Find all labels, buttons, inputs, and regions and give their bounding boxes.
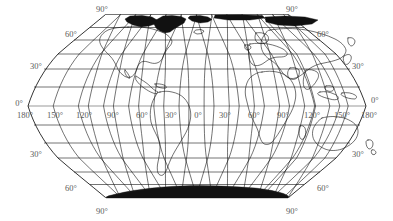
label-lon-0: 0° — [194, 110, 202, 120]
label-lat-right-0: 0° — [371, 95, 379, 105]
landmass-north-pole-ice — [214, 15, 265, 20]
label-lat-left-90n: 90° — [96, 4, 108, 14]
label-lon-30w: 30° — [165, 110, 177, 120]
label-lat-left-0: 0° — [15, 98, 23, 108]
label-lat-right-30n: 30° — [352, 61, 364, 71]
label-lat-right-90s: 90° — [286, 206, 298, 216]
label-lon-150e: 150° — [334, 110, 350, 120]
label-lat-left-60n: 60° — [65, 29, 77, 39]
label-lat-left-30n: 30° — [30, 61, 42, 71]
label-lon-120e: 120° — [304, 110, 320, 120]
label-lon-60w: 60° — [136, 110, 148, 120]
label-lat-right-30s: 30° — [352, 149, 364, 159]
label-lon-30e: 30° — [219, 110, 231, 120]
label-lon-180e: 180° — [361, 110, 377, 120]
label-lon-90e: 90° — [277, 110, 289, 120]
world-map-graphic: 90° 60° 30° 0° 30° 60° 90° 90° 60° 30° 0… — [0, 0, 393, 221]
label-lon-150w: 150° — [47, 110, 63, 120]
label-lon-60e: 60° — [248, 110, 260, 120]
world-map-figure: 90° 60° 30° 0° 30° 60° 90° 90° 60° 30° 0… — [0, 0, 393, 221]
label-lat-right-90n: 90° — [286, 4, 298, 14]
label-lon-90w: 90° — [107, 110, 119, 120]
label-lat-right-60s: 60° — [317, 183, 329, 193]
label-lat-left-90s: 90° — [96, 206, 108, 216]
label-lat-right-60n: 60° — [317, 29, 329, 39]
label-lon-180w: 180° — [17, 110, 33, 120]
label-lat-left-30s: 30° — [30, 149, 42, 159]
label-lat-left-60s: 60° — [65, 183, 77, 193]
label-lon-120w: 120° — [76, 110, 92, 120]
